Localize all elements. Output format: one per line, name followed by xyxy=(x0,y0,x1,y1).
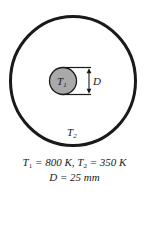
t1-value: = 800 K, xyxy=(32,156,77,168)
temperature-caption: T1 = 800 K, T2 = 350 K xyxy=(0,157,149,170)
arrow-down-icon xyxy=(87,89,92,94)
diameter-label: D xyxy=(92,75,101,87)
outer-temp-label: T2 xyxy=(67,126,77,140)
t2-value: = 350 K xyxy=(87,156,127,168)
arrow-up-icon xyxy=(87,68,92,73)
diameter-caption: D = 25 mm xyxy=(0,172,149,183)
